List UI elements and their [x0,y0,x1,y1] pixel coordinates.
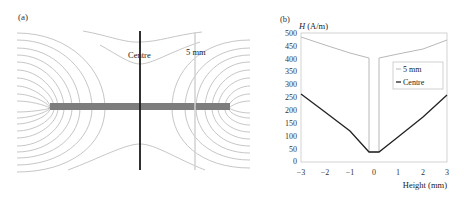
plot-area [301,33,447,162]
figure: (a) [0,0,464,205]
panel-a-label: (a) [18,12,28,22]
five-mm-label: 5 mm [186,47,206,57]
svg-text:0: 0 [293,157,297,166]
svg-text:−2: −2 [321,168,330,177]
centre-label: Centre [128,50,151,60]
svg-text:250: 250 [285,93,297,102]
svg-text:100: 100 [285,132,297,141]
svg-text:−3: −3 [297,168,306,177]
y-axis-title: H (A/m) [298,21,328,31]
legend-centre: Centre [403,78,425,87]
svg-text:2: 2 [421,168,425,177]
svg-text:300: 300 [285,80,297,89]
x-axis-title: Height (mm) [403,180,447,190]
panel-b: (b) H (A/m) 500 450 400 350 300 250 200 … [280,14,449,190]
svg-text:500: 500 [285,29,297,38]
legend: 5 mm Centre [393,62,443,89]
panel-b-label: (b) [280,14,290,24]
svg-text:0: 0 [372,168,376,177]
svg-text:200: 200 [285,106,297,115]
svg-text:350: 350 [285,67,297,76]
svg-text:1: 1 [396,168,400,177]
x-axis: −3 −2 −1 0 1 2 3 [297,168,449,177]
svg-text:400: 400 [285,55,297,64]
svg-text:450: 450 [285,42,297,51]
y-axis: 500 450 400 350 300 250 200 150 100 50 0 [285,29,297,166]
series-5mm [301,37,447,152]
svg-text:150: 150 [285,119,297,128]
svg-text:3: 3 [445,168,449,177]
legend-5mm: 5 mm [403,65,422,74]
series-centre [301,94,447,152]
svg-text:50: 50 [289,145,297,154]
svg-text:−1: −1 [346,168,355,177]
panel-a: (a) [17,12,250,172]
